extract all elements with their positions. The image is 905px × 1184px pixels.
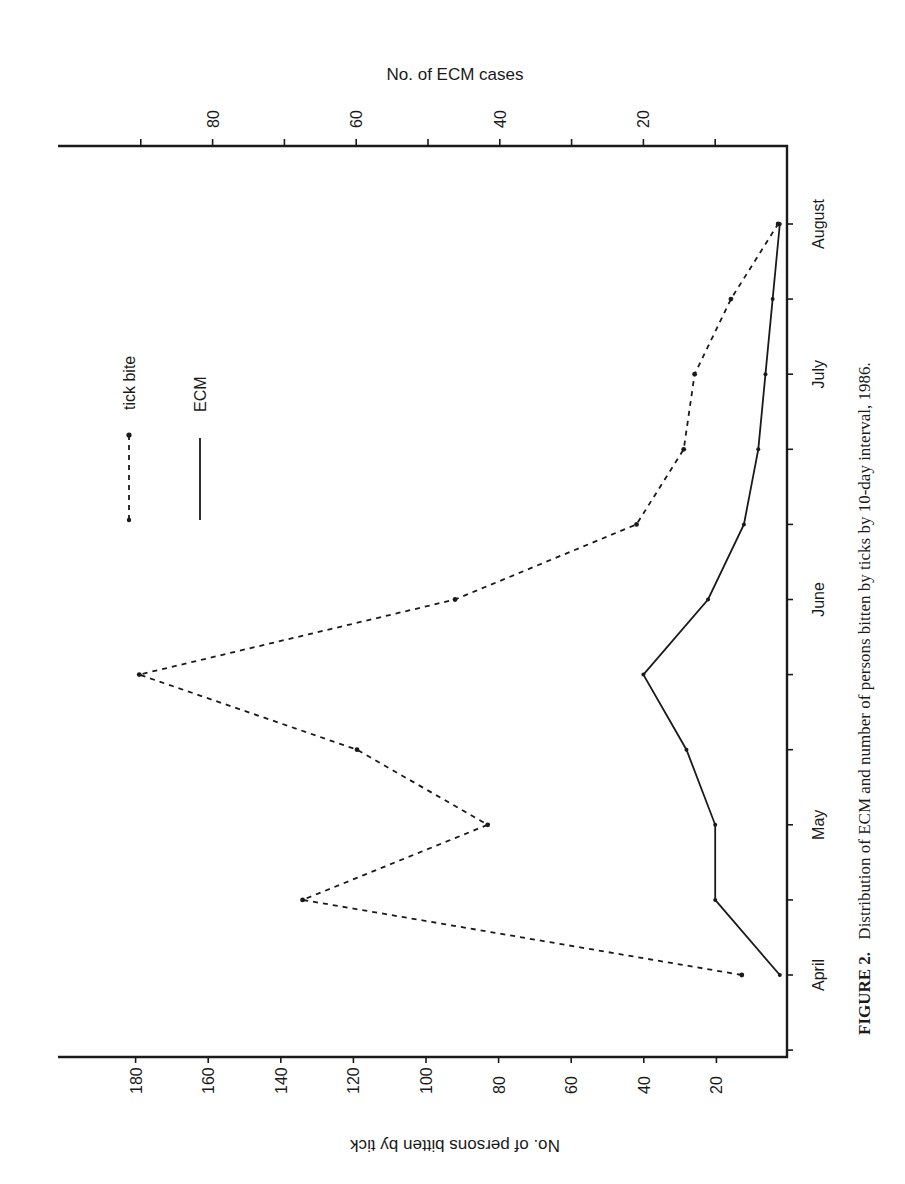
figure-caption: FIGURE 2. Distribution of ECM and number… — [855, 362, 874, 1035]
secondary-tick-label: 60 — [348, 110, 365, 128]
tick-bite-point — [485, 822, 490, 827]
month-label: June — [810, 582, 827, 617]
primary-tick-label: 80 — [491, 1076, 508, 1094]
primary-tick-label: 100 — [418, 1067, 435, 1094]
legend-tick-bite-label: tick bite — [121, 356, 138, 410]
ecm-point — [641, 673, 645, 677]
tick-bite-series-line — [139, 224, 778, 975]
legend: tick bite ECM — [121, 356, 209, 523]
secondary-tick-label: 40 — [492, 110, 509, 128]
legend-dot-icon — [126, 432, 131, 437]
tick-bite-point — [692, 372, 697, 377]
figure-chart: No. of ECM cases 20406080 20406080100120… — [0, 0, 905, 1184]
ecm-point — [756, 447, 760, 451]
primary-tick-label: 20 — [708, 1076, 725, 1094]
time-axis-ticks: AprilMayJuneJulyAugust — [787, 199, 827, 1051]
primary-tick-label: 180 — [128, 1067, 145, 1094]
ecm-point — [778, 222, 782, 226]
ecm-series-points — [641, 222, 781, 977]
primary-axis-ticks: 20406080100120140160180 — [128, 1057, 726, 1094]
tick-bite-point — [355, 747, 360, 752]
ecm-series-line — [643, 224, 779, 975]
secondary-axis-title: No. of ECM cases — [387, 65, 524, 84]
month-label: April — [810, 959, 827, 991]
month-label: May — [810, 810, 827, 840]
ecm-point — [684, 748, 688, 752]
legend-ecm-label: ECM — [192, 376, 209, 412]
tick-bite-point — [300, 898, 305, 903]
primary-tick-label: 140 — [273, 1067, 290, 1094]
primary-tick-label: 120 — [345, 1067, 362, 1094]
primary-tick-label: 160 — [200, 1067, 217, 1094]
ecm-point — [771, 297, 775, 301]
tick-bite-point — [729, 297, 734, 302]
legend-dot-icon — [127, 518, 131, 522]
ecm-point — [763, 372, 767, 376]
tick-bite-point — [634, 522, 639, 527]
primary-axis-title: No. of persons bitten by tick — [350, 1136, 560, 1155]
caption-label: FIGURE 2. — [855, 952, 874, 1035]
tick-bite-point — [681, 447, 686, 452]
tick-bite-point — [739, 973, 744, 978]
ecm-point — [713, 898, 717, 902]
primary-tick-label: 40 — [636, 1076, 653, 1094]
secondary-tick-label: 80 — [205, 110, 222, 128]
secondary-axis-ticks: 20406080 — [141, 110, 715, 146]
ecm-point — [778, 973, 782, 977]
tick-bite-point — [453, 597, 458, 602]
tick-bite-series-points — [137, 222, 781, 978]
secondary-tick-label: 20 — [635, 110, 652, 128]
ecm-point — [713, 823, 717, 827]
month-label: August — [810, 199, 827, 249]
ecm-point — [742, 522, 746, 526]
month-label: July — [810, 360, 827, 388]
caption-text: Distribution of ECM and number of person… — [855, 362, 874, 939]
tick-bite-point — [137, 672, 142, 677]
primary-tick-label: 60 — [563, 1076, 580, 1094]
ecm-point — [706, 598, 710, 602]
